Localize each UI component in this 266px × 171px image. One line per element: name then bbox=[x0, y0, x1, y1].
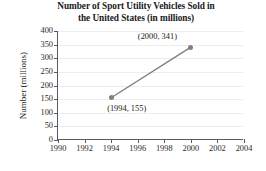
x-axis-tick-label: 2004 bbox=[236, 145, 253, 153]
x-axis-tick-label: 1998 bbox=[156, 145, 173, 153]
y-axis-tick-label: 150 bbox=[40, 95, 53, 103]
data-point-label: (1994, 155) bbox=[107, 105, 146, 113]
chart-figure: Number of Sport Utility Vehicles Sold in… bbox=[0, 0, 266, 171]
y-axis-tick-label: 50 bbox=[45, 122, 53, 130]
x-axis-tick bbox=[244, 139, 245, 143]
chart-title-line-1: Number of Sport Utility Vehicles Sold in bbox=[30, 1, 242, 13]
data-point-label: (2000, 341) bbox=[138, 33, 177, 41]
y-axis-tick-label: 300 bbox=[40, 54, 53, 62]
plot-area: 0501001502002503003504001990199219941996… bbox=[57, 31, 243, 140]
data-point-marker bbox=[188, 45, 193, 50]
x-axis-tick-label: 1996 bbox=[129, 145, 146, 153]
y-axis-tick-label: 400 bbox=[40, 27, 53, 35]
y-axis-tick-label: 250 bbox=[40, 68, 53, 76]
data-series-layer: (1994, 155)(2000, 341) bbox=[58, 31, 243, 139]
x-axis-tick-label: 2000 bbox=[182, 145, 199, 153]
x-axis-tick-label: 2002 bbox=[209, 145, 226, 153]
x-axis-tick-label: 1992 bbox=[76, 145, 93, 153]
y-axis-title: Number (millions) bbox=[17, 31, 29, 140]
x-axis-tick-label: 1990 bbox=[50, 145, 67, 153]
y-axis-tick-label: 200 bbox=[40, 82, 53, 90]
y-axis-tick-label: 350 bbox=[40, 41, 53, 49]
chart-title: Number of Sport Utility Vehicles Sold in… bbox=[30, 1, 242, 24]
x-axis-tick-label: 1994 bbox=[103, 145, 120, 153]
chart-title-line-2: the United States (in millions) bbox=[30, 13, 242, 25]
series-line bbox=[58, 31, 244, 140]
y-axis-tick-label: 100 bbox=[40, 109, 53, 117]
data-point-marker bbox=[109, 95, 114, 100]
